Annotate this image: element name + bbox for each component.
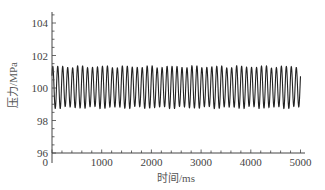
pressure-series-line: [52, 66, 301, 109]
x-axis-label: 时间/ms: [157, 172, 195, 184]
plot-area: [52, 66, 301, 109]
x-tick-label: 3000: [190, 156, 213, 168]
y-axis-label: 压力/MPa: [7, 62, 19, 108]
y-tick-label: 102: [32, 50, 49, 62]
x-tick-label: 4000: [240, 156, 263, 168]
x-tick-label: 0: [43, 156, 49, 168]
x-tick-label: 1000: [91, 156, 114, 168]
y-tick-label: 98: [37, 115, 49, 127]
pressure-chart: 9698100102104010002000300040005000 时间/ms…: [0, 0, 325, 190]
y-tick-label: 100: [32, 82, 49, 94]
y-tick-label: 104: [32, 17, 49, 29]
x-tick-label: 5000: [290, 156, 313, 168]
x-tick-label: 2000: [140, 156, 163, 168]
